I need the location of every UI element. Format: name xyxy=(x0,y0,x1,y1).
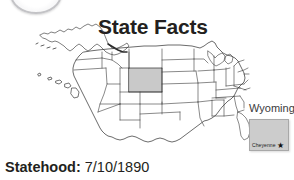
state-wyoming-highlight xyxy=(129,68,162,92)
us-map[interactable] xyxy=(8,8,254,163)
state-hawaii xyxy=(38,73,79,98)
star-icon: ★ xyxy=(277,142,284,150)
state-name-callout: Wyoming xyxy=(249,102,294,115)
state-alaska xyxy=(36,24,129,55)
great-lakes-outline xyxy=(208,51,233,66)
state-facts-slide: State Facts xyxy=(0,0,294,180)
statehood-value: 7/10/1890 xyxy=(85,159,150,175)
us-map-icon xyxy=(8,8,254,163)
statehood-fact: Statehood: 7/10/1890 xyxy=(5,158,149,176)
capital-inset-map[interactable]: Cheyenne ★ xyxy=(249,119,289,151)
capital-label: Cheyenne xyxy=(252,142,276,148)
statehood-label: Statehood: xyxy=(5,159,81,175)
state-borders-east xyxy=(194,49,250,126)
